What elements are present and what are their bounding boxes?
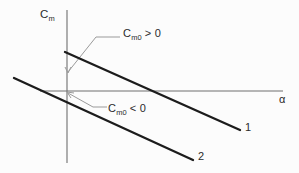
y-axis-label: Cm [40, 9, 55, 23]
annotation-cm0-negative-base: C [108, 102, 116, 114]
diagram-canvas: Cm α Cm0 > 0 Cm0 < 0 1 2 [0, 0, 299, 173]
annotation-cm0-negative-relation: < 0 [130, 102, 146, 114]
curve-label-2: 2 [198, 151, 204, 162]
plot-svg [0, 0, 299, 173]
annotation-cm0-negative: Cm0 < 0 [108, 103, 146, 117]
y-axis-label-base: C [40, 8, 49, 20]
annotation-cm0-positive-relation: > 0 [145, 27, 161, 39]
curve-2-line [14, 78, 193, 160]
annotation-cm0-positive: Cm0 > 0 [123, 28, 161, 42]
curve-label-1: 1 [245, 122, 251, 133]
annotation-cm0-negative-sub2: 0 [122, 108, 126, 117]
annotation-cm0-positive-base: C [123, 27, 131, 39]
annotation-cm0-positive-sub2: 0 [137, 33, 141, 42]
leader-line-cm0-positive [68, 37, 120, 72]
x-axis-label: α [279, 94, 286, 105]
leader-arrowhead-cm0-negative [67, 92, 74, 98]
y-axis-label-subscript: m [49, 14, 55, 23]
